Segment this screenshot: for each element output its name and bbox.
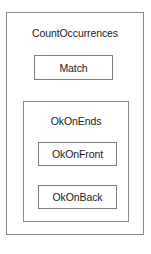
state-countoccurrences-label: CountOccurrences bbox=[7, 27, 143, 39]
state-okonback-label: OkOnBack bbox=[53, 191, 103, 203]
state-countoccurrences[interactable]: CountOccurrences Match OkOnEnds OkOnFron… bbox=[6, 12, 144, 235]
state-diagram-canvas: CountOccurrences Match OkOnEnds OkOnFron… bbox=[0, 0, 151, 254]
state-okonfront-label: OkOnFront bbox=[52, 148, 103, 160]
state-match[interactable]: Match bbox=[34, 55, 113, 80]
state-okonends-label: OkOnEnds bbox=[24, 115, 128, 127]
state-match-label: Match bbox=[59, 62, 87, 74]
state-okonback[interactable]: OkOnBack bbox=[38, 185, 117, 209]
state-okonends[interactable]: OkOnEnds OkOnFront OkOnBack bbox=[23, 101, 129, 222]
state-okonfront[interactable]: OkOnFront bbox=[38, 142, 117, 166]
